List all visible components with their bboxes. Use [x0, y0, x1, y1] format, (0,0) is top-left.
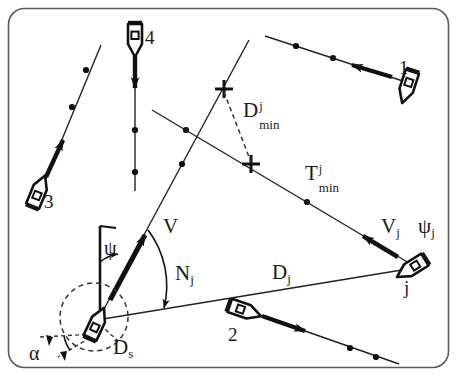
own-heading-label: ψ	[104, 238, 117, 258]
alpha-tick-lower	[60, 351, 67, 361]
ship-1-label: 1	[399, 58, 409, 77]
dmin-subscript: min	[259, 118, 279, 131]
alpha-tick-upper	[46, 335, 53, 346]
dmin-marker-upper	[215, 80, 233, 98]
ship-j-label: j	[404, 278, 409, 297]
ship4-track	[132, 48, 138, 191]
north-reference-cap	[100, 226, 116, 228]
nj-base: N	[175, 261, 190, 285]
dmin-label: Djmin	[243, 100, 258, 121]
ship-4-hull	[128, 22, 142, 57]
ship-4-label: 4	[145, 28, 155, 47]
psij-base: ψ	[418, 214, 431, 238]
tmin-base: T	[305, 161, 318, 185]
psij-subscript: j	[431, 225, 435, 240]
alpha-label: α	[29, 343, 39, 363]
vj-subscript: j	[396, 225, 400, 240]
tmin-subscript: min	[319, 181, 339, 194]
ship-3-label: 3	[44, 192, 54, 211]
vj-base: V	[381, 214, 396, 238]
own-ship-track	[97, 40, 249, 322]
ds-base: D	[113, 335, 128, 359]
safety-domain-label: Ds	[113, 337, 133, 360]
ship-2-label: 2	[228, 325, 238, 344]
dmin-base: D	[243, 98, 258, 122]
own-ship-hull	[83, 305, 110, 343]
dmin-superscript: j	[259, 100, 262, 112]
ship1-track	[265, 36, 412, 84]
own-speed-label: V	[163, 216, 178, 237]
target-heading-label: ψj	[418, 216, 435, 239]
collision-avoidance-figure: 4 1 3 2 j Djmin Tjmin V ψ Nj Dj Ds α Vj …	[0, 0, 457, 384]
dj-base: D	[272, 260, 287, 284]
dmin-marker-lower	[242, 155, 260, 173]
ds-subscript: s	[128, 346, 133, 361]
tmin-superscript: j	[319, 163, 322, 175]
range-label: Dj	[272, 262, 291, 285]
target-speed-label: Vj	[381, 216, 400, 239]
dj-subscript: j	[287, 271, 291, 286]
nj-angle-arc	[148, 230, 167, 308]
nj-subscript: j	[190, 272, 194, 287]
tmin-label: Tjmin	[305, 163, 318, 184]
ship3-track	[44, 45, 101, 183]
relative-bearing-label: Nj	[175, 263, 194, 286]
shipj-track	[152, 110, 414, 266]
ship-2-hull	[226, 298, 264, 323]
